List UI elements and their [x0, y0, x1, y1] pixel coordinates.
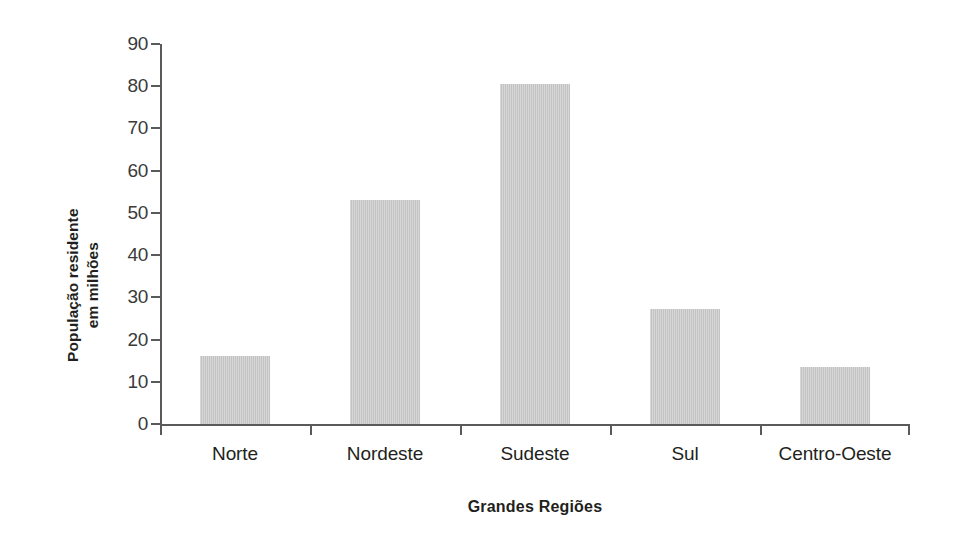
- y-axis-tick: [151, 85, 160, 87]
- y-axis-tick-label: 10: [92, 372, 148, 391]
- y-axis-tick-label: 50: [92, 203, 148, 222]
- bar: [200, 356, 270, 424]
- x-axis-tick: [160, 426, 162, 435]
- y-axis-tick-label: 80: [92, 76, 148, 95]
- x-axis-tick-label: Sudeste: [460, 444, 610, 465]
- x-axis-tick-label: Sul: [610, 444, 760, 465]
- x-axis-tick-label: Nordeste: [310, 444, 460, 465]
- y-axis-tick: [151, 339, 160, 341]
- x-axis-tick-labels: NorteNordesteSudesteSulCentro-Oeste: [160, 444, 910, 478]
- y-axis-tick: [151, 296, 160, 298]
- y-axis-tick-label: 40: [92, 245, 148, 264]
- bar-series: [160, 44, 910, 424]
- y-axis-tick-label: 60: [92, 161, 148, 180]
- bar: [650, 309, 720, 424]
- y-axis-tick: [151, 127, 160, 129]
- y-axis-tick: [151, 212, 160, 214]
- y-axis-tick-label: 20: [92, 330, 148, 349]
- x-axis-tick-label: Norte: [160, 444, 310, 465]
- x-axis-tick: [460, 426, 462, 435]
- y-axis-tick: [151, 43, 160, 45]
- bar: [500, 84, 570, 424]
- bar: [350, 200, 420, 424]
- x-axis-title: Grandes Regiões: [160, 498, 910, 516]
- y-axis-tick-label: 90: [92, 34, 148, 53]
- x-axis-tick-label: Centro-Oeste: [760, 444, 910, 465]
- x-axis-tick: [310, 426, 312, 435]
- bar: [800, 367, 870, 424]
- y-axis-tick: [151, 423, 160, 425]
- x-axis-tick: [908, 426, 910, 435]
- bar-chart: População residente em milhões 010203040…: [0, 0, 963, 556]
- y-axis-tick: [151, 254, 160, 256]
- x-axis-tick: [610, 426, 612, 435]
- y-axis-tick-label: 0: [92, 414, 148, 433]
- x-axis-line: [160, 424, 910, 426]
- y-axis-tick-label: 30: [92, 287, 148, 306]
- y-axis-tick: [151, 170, 160, 172]
- y-axis-tick-label: 70: [92, 118, 148, 137]
- plot-area: [160, 44, 910, 424]
- y-axis-tick-labels: 0102030405060708090: [92, 0, 148, 556]
- y-axis-tick: [151, 381, 160, 383]
- x-axis-tick: [760, 426, 762, 435]
